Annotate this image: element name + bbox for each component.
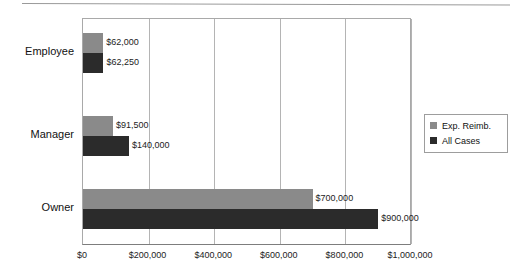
chart-legend: Exp. Reimb.All Cases <box>424 114 508 153</box>
category-label-employee: Employee <box>0 45 74 57</box>
category-label-owner: Owner <box>0 201 74 213</box>
legend-label: Exp. Reimb. <box>442 121 491 131</box>
x-tick-label-4: $800,000 <box>326 250 364 260</box>
bar-owner-exp-reimb <box>83 189 313 209</box>
chart-screenshot: EmployeeManagerOwner $0$200,000$400,000$… <box>0 0 516 273</box>
x-tick-label-1: $200,000 <box>129 250 167 260</box>
legend-swatch-icon <box>430 137 437 144</box>
bar-value-label: $62,000 <box>102 32 139 52</box>
bar-owner-all-cases <box>83 209 378 229</box>
x-tick-label-3: $600,000 <box>260 250 298 260</box>
legend-label: All Cases <box>442 136 480 146</box>
x-tick-label-0: $0 <box>77 250 87 260</box>
bar-value-label: $900,000 <box>377 208 419 228</box>
bar-value-label: $62,250 <box>102 52 139 72</box>
legend-swatch-icon <box>430 122 437 129</box>
x-tick-label-2: $400,000 <box>194 250 232 260</box>
bar-employee-exp-reimb <box>83 33 103 53</box>
x-tick-label-5: $1,000,000 <box>387 250 432 260</box>
legend-item-exp-reimb[interactable]: Exp. Reimb. <box>430 119 502 132</box>
page-top-rule <box>22 3 510 6</box>
legend-item-all-cases[interactable]: All Cases <box>430 134 502 147</box>
bar-value-label: $700,000 <box>312 188 354 208</box>
bar-manager-exp-reimb <box>83 116 113 136</box>
bar-value-label: $140,000 <box>128 135 170 155</box>
category-label-manager: Manager <box>0 128 74 140</box>
bar-manager-all-cases <box>83 136 129 156</box>
bar-employee-all-cases <box>83 53 103 73</box>
bar-value-label: $91,500 <box>112 115 149 135</box>
